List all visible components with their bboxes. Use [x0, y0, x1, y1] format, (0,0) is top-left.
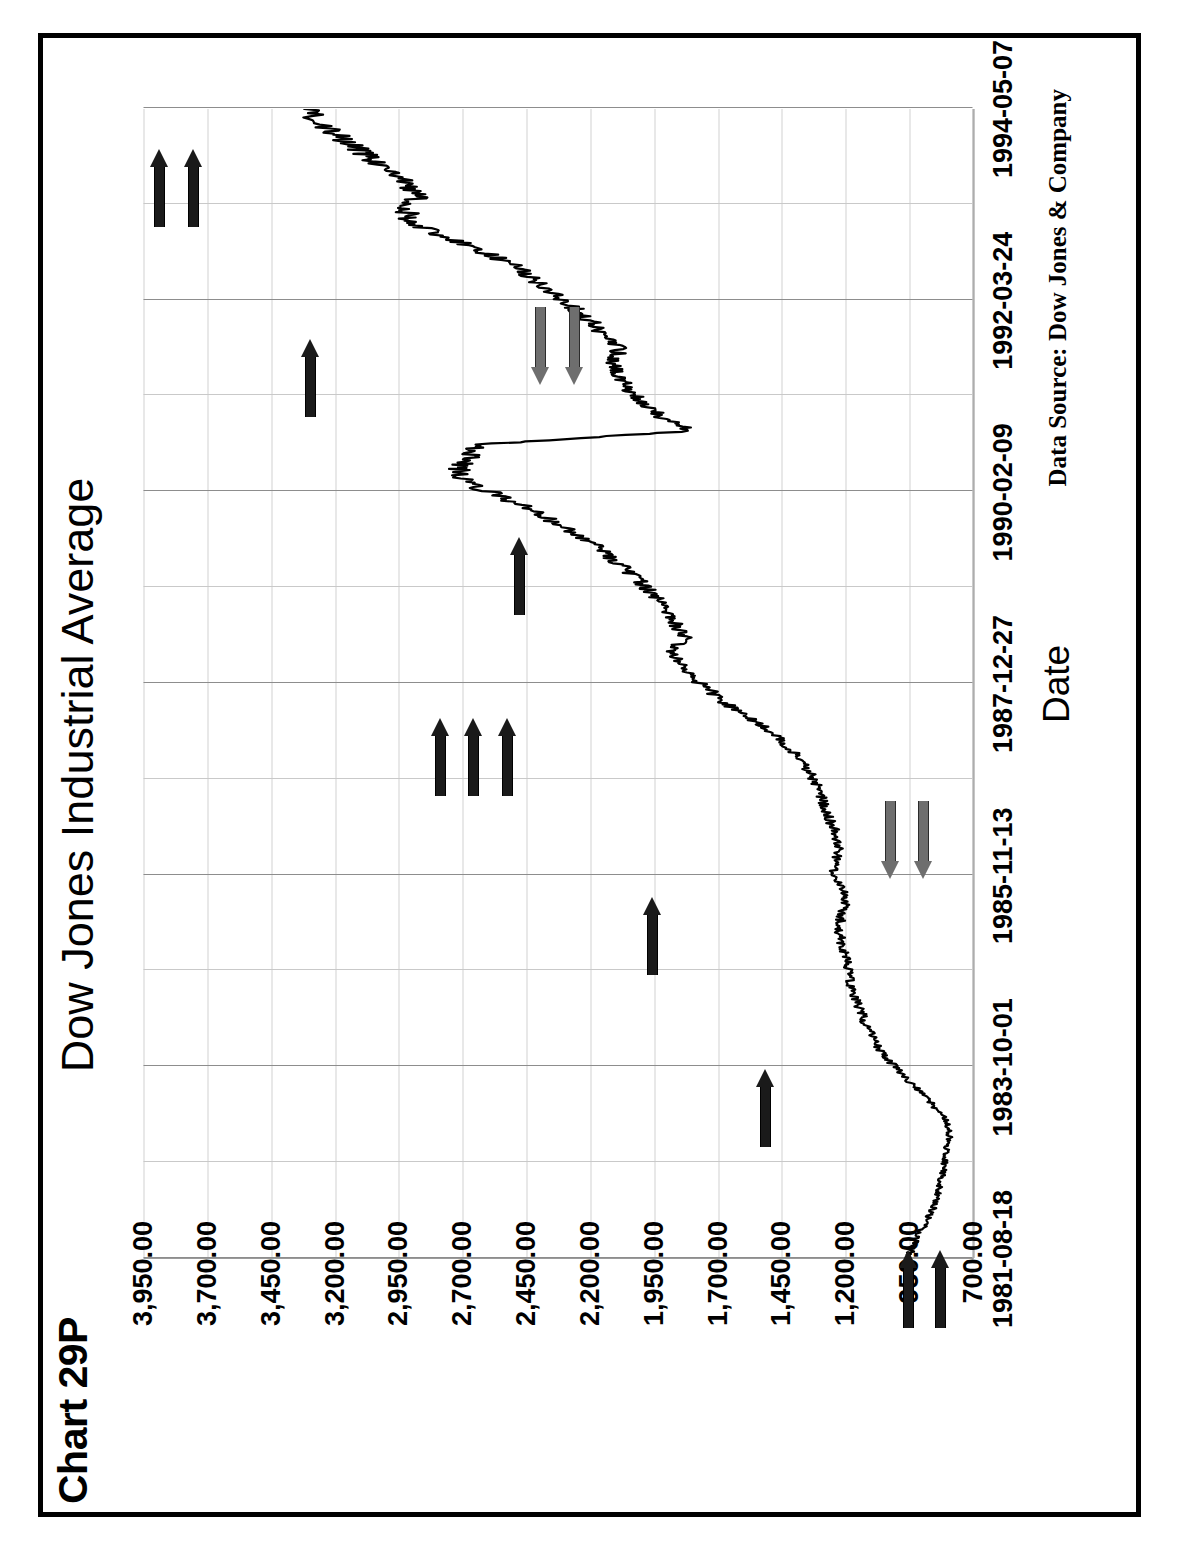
gridline-h — [973, 109, 974, 1258]
y-tick-label: 2,950.00 — [383, 1221, 414, 1326]
y-tick-label: 3,950.00 — [128, 1221, 159, 1326]
x-tick-label: 1990-02-09 — [987, 423, 1018, 561]
black-arrow-right-icon — [643, 897, 660, 975]
y-tick-label: 1,200.00 — [830, 1221, 861, 1326]
y-tick-label: 1,450.00 — [766, 1221, 797, 1326]
series-line-dow-jones — [143, 109, 972, 1258]
gray-arrow-left-icon — [530, 307, 547, 385]
gray-arrow-left-icon — [880, 802, 897, 880]
black-arrow-right-icon — [150, 149, 167, 227]
x-tick-label: 1987-12-27 — [987, 615, 1018, 753]
x-tick-label: 1985-11-13 — [987, 807, 1018, 944]
gray-arrow-left-icon — [913, 802, 930, 880]
plot-area — [143, 109, 973, 1259]
y-tick-label: 3,200.00 — [319, 1221, 350, 1326]
x-tick-label: 1994-05-07 — [987, 40, 1018, 178]
black-arrow-right-icon — [898, 1250, 915, 1328]
chart-figure: Chart 29P Dow Jones Industrial Average 3… — [43, 38, 1136, 1512]
black-arrow-right-icon — [431, 719, 448, 797]
black-arrow-right-icon — [464, 719, 481, 797]
black-arrow-right-icon — [301, 339, 318, 417]
y-tick-label: 2,700.00 — [447, 1221, 478, 1326]
y-tick-label: 3,450.00 — [255, 1221, 286, 1326]
y-tick-label: 2,200.00 — [574, 1221, 605, 1326]
x-tick-label: 1983-10-01 — [987, 998, 1018, 1136]
x-tick-label: 1992-03-24 — [987, 232, 1018, 370]
gridline-v — [143, 107, 972, 108]
y-tick-label: 700.00 — [958, 1221, 989, 1304]
black-arrow-right-icon — [510, 537, 527, 615]
black-arrow-right-icon — [755, 1069, 772, 1147]
black-arrow-right-icon — [183, 149, 200, 227]
y-tick-label: 2,450.00 — [511, 1221, 542, 1326]
chart-title: Dow Jones Industrial Average — [51, 38, 103, 1512]
y-tick-label: 3,700.00 — [191, 1221, 222, 1326]
black-arrow-right-icon — [930, 1250, 947, 1328]
x-tick-label: 1981-08-18 — [987, 1190, 1018, 1328]
y-tick-label: 1,950.00 — [638, 1221, 669, 1326]
y-tick-label: 1,700.00 — [702, 1221, 733, 1326]
rotated-chart-wrapper: Chart 29P Dow Jones Industrial Average 3… — [43, 38, 1136, 1512]
gray-arrow-left-icon — [565, 307, 582, 385]
data-source-note: Data Source: Dow Jones & Company — [1043, 89, 1071, 1259]
screenshot-page: Chart 29P Dow Jones Industrial Average 3… — [0, 0, 1179, 1555]
black-arrow-right-icon — [497, 719, 514, 797]
